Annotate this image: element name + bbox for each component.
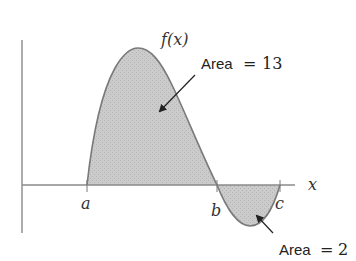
function-label: f(x) bbox=[160, 30, 188, 49]
point-label-a: a bbox=[81, 194, 91, 213]
area-2-value: 2 bbox=[338, 240, 348, 259]
annotation-area-2: Area = 2 bbox=[279, 240, 348, 259]
area-13-equals: = bbox=[243, 54, 256, 73]
point-label-b: b bbox=[211, 201, 221, 220]
area-diagram: a b c x f(x) Area = 13 Area = 2 bbox=[0, 0, 356, 261]
point-label-c: c bbox=[275, 194, 284, 213]
area-13-prefix: Area bbox=[201, 55, 233, 72]
area-13-value: 13 bbox=[262, 54, 282, 73]
annotation-area-13: Area = 13 bbox=[201, 54, 282, 73]
area-2-prefix: Area bbox=[279, 241, 311, 258]
area-2-equals: = bbox=[320, 240, 333, 259]
x-axis-label: x bbox=[308, 175, 317, 194]
positive-area-region bbox=[87, 48, 217, 185]
